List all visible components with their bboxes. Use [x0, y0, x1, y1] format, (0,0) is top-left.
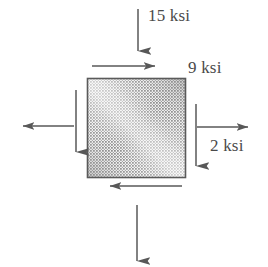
stress-element-square: [88, 79, 186, 178]
stress-element-figure: 15 ksi 9 ksi 2 ksi: [0, 0, 268, 267]
label-sigma-x: 2 ksi: [210, 137, 244, 154]
label-sigma-y: 15 ksi: [148, 7, 190, 24]
label-tau-xy: 9 ksi: [188, 59, 222, 76]
figure-canvas: [0, 0, 268, 267]
